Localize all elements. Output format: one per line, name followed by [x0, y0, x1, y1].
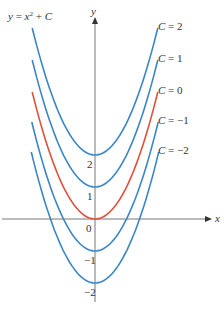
x-axis-arrow-icon	[205, 216, 212, 222]
y-tick-label: 2	[87, 158, 93, 170]
y-tick-label: 1	[87, 190, 93, 202]
origin-label: 0	[86, 222, 92, 234]
curve-label: C = 2	[158, 20, 183, 32]
y-axis-arrow-icon	[92, 17, 98, 24]
curve-label: C = 1	[158, 52, 183, 64]
curve-label: C = −1	[158, 114, 189, 126]
title: y = x2 + C	[7, 10, 53, 22]
parabola-family-chart: x y y = x2 + C 0 21−1−2 C = 2C = 1C = 0C…	[0, 0, 224, 313]
curve-label: C = −2	[158, 144, 189, 156]
x-axis-label: x	[214, 212, 220, 224]
y-tick-label: −2	[84, 286, 96, 298]
y-axis-label: y	[90, 5, 96, 17]
y-tick-label: −1	[84, 254, 96, 266]
curve-labels: C = 2C = 1C = 0C = −1C = −2	[158, 20, 189, 156]
curve-label: C = 0	[158, 84, 183, 96]
